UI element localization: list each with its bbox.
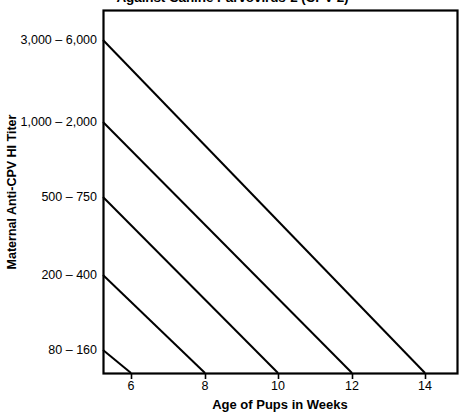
decay-line-500-750: [103, 197, 278, 373]
chart-figure: Against Canine Parvovirus-2 (CPV-2) Mate…: [0, 0, 465, 418]
plot-frame: [104, 11, 458, 374]
decay-line-3000-6000: [103, 40, 425, 373]
decay-line-80-160: [103, 350, 131, 373]
plot-area: [0, 0, 465, 418]
maternal-antibody-decay-lines: [103, 40, 425, 373]
decay-line-200-400: [103, 275, 205, 373]
decay-line-1000-2000: [103, 122, 352, 373]
x-axis-ticks: [132, 374, 426, 379]
